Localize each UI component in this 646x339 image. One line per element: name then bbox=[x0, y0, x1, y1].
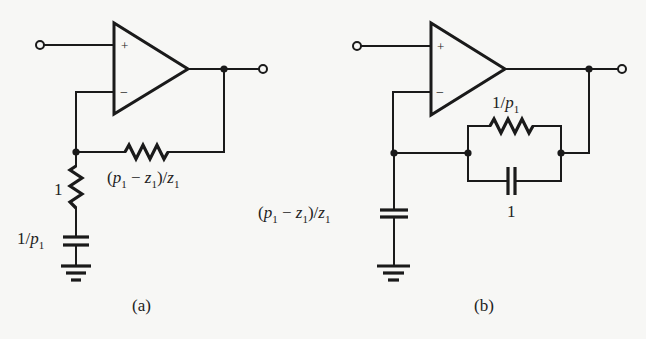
circuit-figure: + − (p1 − z1)/z1 1 1/p1 bbox=[0, 0, 646, 339]
caption-a: (a) bbox=[132, 296, 151, 315]
opamp-b-minus: − bbox=[436, 85, 444, 100]
opamp-b-plus: + bbox=[437, 39, 444, 54]
circuit-a: + − (p1 − z1)/z1 1 1/p1 bbox=[17, 23, 267, 315]
schematic-canvas: + − (p1 − z1)/z1 1 1/p1 bbox=[0, 0, 646, 339]
parallel-resistor-b-label: 1/p1 bbox=[492, 93, 519, 115]
wire bbox=[168, 69, 224, 152]
wire bbox=[468, 126, 490, 153]
inverting-wire-b bbox=[393, 92, 429, 153]
wire bbox=[468, 153, 507, 181]
parallel-capacitor-b-label: 1 bbox=[507, 202, 516, 221]
opamp-a-icon bbox=[114, 23, 188, 114]
parallel-resistor-b-icon bbox=[490, 119, 533, 133]
opamp-a-plus: + bbox=[121, 38, 128, 53]
shunt-capacitor-a-label: 1/p1 bbox=[17, 229, 44, 251]
output-terminal-b bbox=[618, 65, 626, 73]
ground-b-icon bbox=[377, 266, 410, 280]
input-terminal-b bbox=[353, 42, 361, 50]
opamp-a-minus: − bbox=[120, 85, 128, 100]
wire bbox=[533, 126, 561, 153]
ground-a-icon bbox=[61, 266, 91, 280]
shunt-resistor-a-icon bbox=[70, 166, 82, 208]
inverting-wire-a bbox=[76, 92, 112, 152]
input-terminal-a bbox=[36, 41, 44, 49]
wire bbox=[561, 69, 589, 153]
shunt-capacitor-b-label: (p1 − z1)/z1 bbox=[258, 203, 330, 225]
feedback-resistor-a-label: (p1 − z1)/z1 bbox=[107, 168, 179, 190]
feedback-resistor-a-icon bbox=[125, 145, 168, 159]
output-terminal-a bbox=[259, 65, 267, 73]
circuit-b: + − 1/p1 bbox=[258, 23, 626, 315]
wire bbox=[516, 153, 561, 181]
caption-b: (b) bbox=[474, 296, 494, 315]
shunt-resistor-a-label: 1 bbox=[54, 180, 63, 199]
